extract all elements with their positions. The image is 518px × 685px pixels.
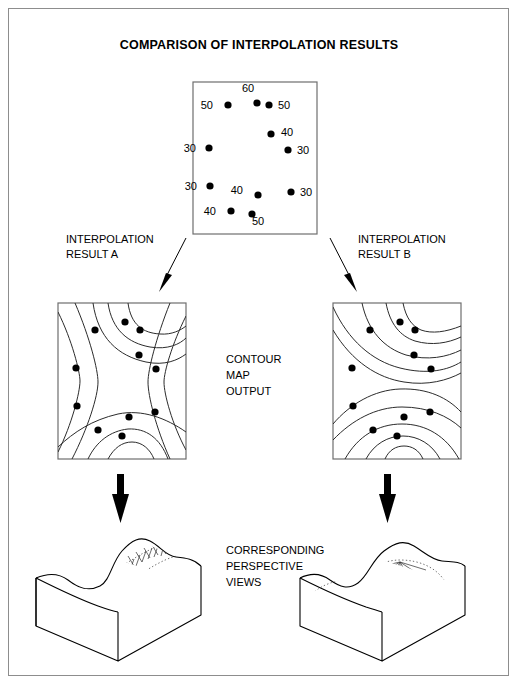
contour-point — [152, 365, 159, 372]
data-point — [224, 101, 231, 108]
data-point-value: 40 — [204, 205, 216, 217]
contour-point — [366, 326, 373, 333]
data-point-value: 30 — [297, 144, 309, 156]
data-point-value: 50 — [252, 215, 264, 227]
data-point-value: 50 — [201, 99, 213, 111]
arrow-down-left-icon — [159, 238, 186, 292]
data-point — [206, 182, 213, 189]
data-point — [254, 191, 261, 198]
diagram-artwork: 6050504030303040304050 — [0, 0, 518, 685]
data-point — [267, 130, 274, 137]
arrow-down-thick-right-icon — [379, 474, 396, 523]
perspective-view-a — [36, 539, 201, 661]
contour-point — [135, 351, 142, 358]
contour-point — [94, 426, 101, 433]
data-point — [253, 99, 260, 106]
data-point — [284, 146, 291, 153]
arrow-down-right-icon — [330, 238, 357, 292]
data-point — [227, 207, 234, 214]
contour-point — [118, 432, 125, 439]
data-point-value: 40 — [281, 126, 293, 138]
contour-point — [411, 326, 418, 333]
contour-point — [348, 364, 355, 371]
data-point — [205, 144, 212, 151]
contour-point — [91, 326, 98, 333]
contour-point — [73, 402, 80, 409]
data-point-value: 30 — [300, 186, 312, 198]
contour-point — [396, 318, 403, 325]
contour-point — [136, 326, 143, 333]
contour-map-a — [58, 303, 186, 459]
contour-map-b — [333, 303, 461, 459]
data-point-value: 50 — [278, 99, 290, 111]
data-point-map: 6050504030303040304050 — [184, 82, 317, 234]
contour-point — [349, 402, 356, 409]
contour-point — [426, 408, 433, 415]
data-point-value: 40 — [231, 184, 243, 196]
data-point-value: 60 — [242, 82, 254, 94]
contour-point — [125, 413, 132, 420]
contour-point — [369, 426, 376, 433]
contour-point — [400, 413, 407, 420]
contour-point — [121, 318, 128, 325]
arrow-down-thick-left-icon — [112, 474, 129, 523]
data-point-value: 30 — [184, 142, 196, 154]
contour-point — [151, 408, 158, 415]
data-point — [265, 101, 272, 108]
contour-point — [72, 364, 79, 371]
perspective-view-b — [300, 543, 465, 661]
contour-point — [410, 351, 417, 358]
data-point-value: 30 — [185, 180, 197, 192]
contour-point — [393, 432, 400, 439]
perspective-b-relief — [306, 560, 446, 616]
data-point — [287, 188, 294, 195]
contour-point — [427, 365, 434, 372]
